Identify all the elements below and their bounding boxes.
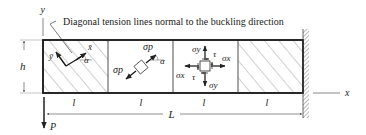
tau-bottom: τ — [192, 72, 196, 82]
panel-2-length: l — [140, 97, 143, 108]
panel-3-stress-element: σy σy σx σx τ τ — [176, 44, 230, 90]
tau-top: τ — [213, 49, 217, 59]
panel-1-length: l — [73, 97, 76, 108]
height-label: h — [20, 60, 26, 72]
tension-field-beam-diagram: y Diagonal tension lines normal to the b… — [0, 0, 366, 135]
height-dimension: h — [20, 40, 42, 93]
principal-element — [134, 60, 148, 74]
x-axis-label: x — [344, 87, 350, 98]
angle-alpha-1: α — [84, 55, 89, 65]
panel-3-length: l — [203, 97, 206, 108]
y-axis: y — [40, 4, 46, 36]
sigma-y-top: σy — [192, 44, 200, 54]
x-bar-label: x̄ — [87, 42, 93, 52]
panel-4-length: l — [266, 97, 269, 108]
sigma-p-top: σp — [143, 41, 153, 52]
panel-length-labels: l l l l — [73, 97, 269, 108]
total-length-label: L — [167, 108, 174, 120]
x-axis: x — [313, 87, 350, 98]
angle-alpha-2: α — [160, 56, 165, 66]
load-p: P — [44, 97, 56, 132]
total-length-dimension: L — [47, 108, 302, 120]
sigma-y-bottom: σy — [209, 80, 217, 90]
load-label: P — [49, 121, 56, 132]
sigma-x-right: σx — [222, 53, 230, 63]
fixed-wall — [303, 29, 309, 118]
annotation-text: Diagonal tension lines normal to the buc… — [63, 16, 284, 27]
panel-4-hatch — [238, 40, 303, 93]
panel-1-hatch — [43, 40, 108, 93]
sigma-p-bottom: σp — [113, 64, 123, 75]
y-axis-label: y — [40, 4, 46, 15]
stress-element — [200, 61, 210, 71]
sigma-x-left: σx — [176, 70, 184, 80]
panel-2-principal-stress: σp σp α — [113, 41, 165, 79]
